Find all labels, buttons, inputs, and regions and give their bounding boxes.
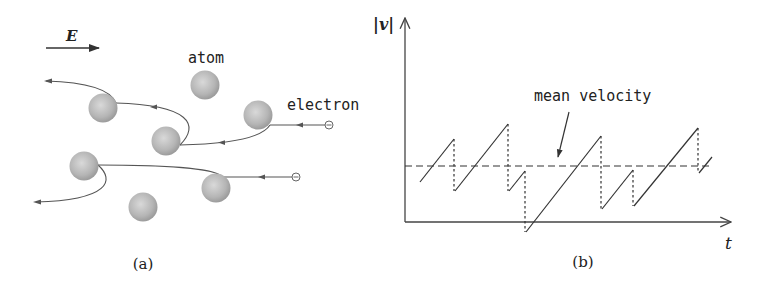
segment-3 [509,171,525,191]
arrow-left-icon [33,200,41,205]
segment-4 [526,136,601,232]
atom-icon [244,101,273,130]
x-axis-label: t [725,233,732,253]
atom-icon [129,193,158,222]
atom-icon [152,127,181,156]
caption-b: (b) [572,253,593,271]
arrow-left-icon [218,140,225,145]
atom-icon [89,94,118,123]
mean-velocity-pointer-icon [558,112,569,157]
atoms [70,71,273,222]
velocity-collision-drops [454,124,698,232]
electron-trajectories [36,81,329,202]
arrow-left-icon [150,105,157,110]
electron-markers [292,121,333,181]
field-label: E [65,27,78,45]
electron-label: electron [287,96,359,114]
arrow-left-icon [258,175,265,180]
panel-a: E atom electron [33,27,359,273]
atom-icon [191,71,220,100]
caption-a: (a) [133,255,154,273]
arrow-left-icon [296,123,303,128]
segment-2 [455,124,508,191]
electric-field-indicator: E [46,27,99,48]
trajectory-lower-to-atom [98,165,222,177]
atom-icon [70,152,99,181]
arrow-left-icon [44,79,52,84]
figure-canvas: E atom electron [0,0,759,293]
y-axis-label: |v| [373,15,394,34]
segment-7 [699,157,712,173]
segment-1 [420,139,454,182]
velocity-rising-segments [420,124,712,232]
segment-6 [634,128,698,206]
atom-icon [202,174,231,203]
segment-5 [602,170,633,209]
panel-b: |v| t mean velocity (b) [373,15,732,271]
mean-velocity-label: mean velocity [534,87,651,105]
atom-label: atom [188,49,224,67]
